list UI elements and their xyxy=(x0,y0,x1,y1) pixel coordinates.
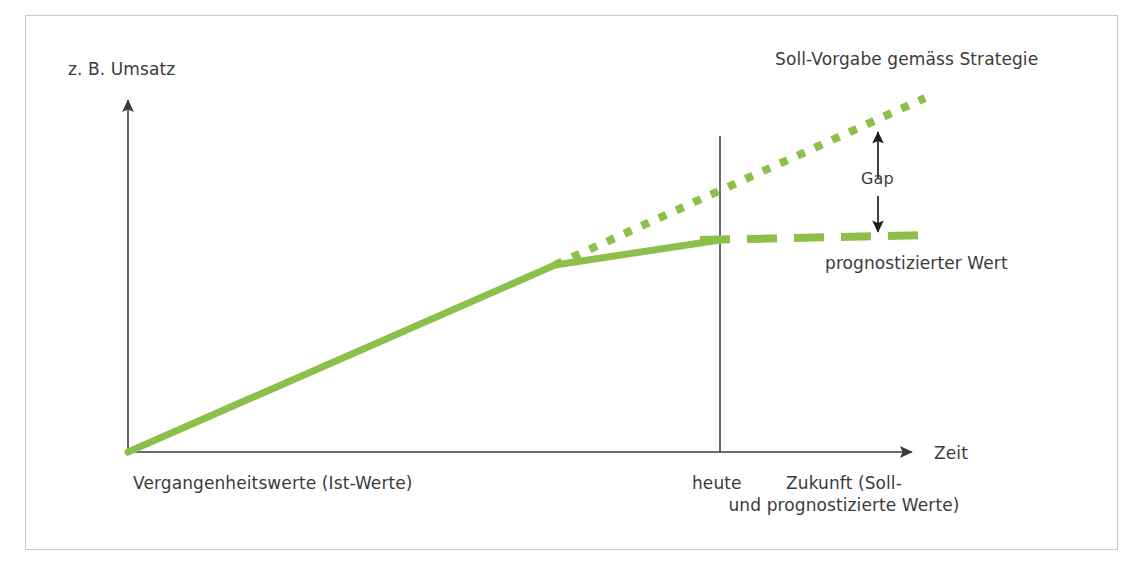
future-period-label: Zukunft (Soll-und prognostizierte Werte) xyxy=(719,472,969,517)
future-label-line-2: und prognostizierte Werte) xyxy=(719,494,969,516)
target-annotation: Soll-Vorgabe gemäss Strategie xyxy=(775,48,1038,70)
forecast-line-dashed xyxy=(700,235,935,240)
forecast-annotation: prognostizierter Wert xyxy=(825,252,1008,274)
future-label-line-1: Zukunft (Soll- xyxy=(786,473,902,493)
actuals-line xyxy=(128,240,720,452)
x-axis-label: Zeit xyxy=(934,442,968,464)
past-period-label: Vergangenheitswerte (Ist-Werte) xyxy=(133,472,413,494)
gap-annotation: Gap xyxy=(861,168,894,189)
y-axis-label: z. B. Umsatz xyxy=(68,58,175,80)
figure-container: z. B. Umsatz Soll-Vorgabe gemäss Strateg… xyxy=(0,0,1131,569)
